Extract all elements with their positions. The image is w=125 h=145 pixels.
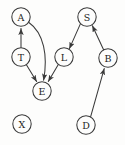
node-E[interactable]: E — [33, 82, 51, 100]
node-X[interactable]: X — [13, 115, 31, 133]
node-L[interactable]: L — [55, 48, 73, 66]
node-S-label: S — [84, 12, 91, 23]
edge-T-to-E — [26, 65, 36, 82]
node-A[interactable]: A — [12, 8, 30, 26]
graph-diagram: A S T L B E X — [0, 0, 125, 145]
edge-L-to-E — [48, 64, 58, 81]
edge-layer — [21, 22, 104, 117]
edge-B-to-S — [92, 26, 103, 50]
edge-D-to-B — [91, 69, 105, 117]
graph-canvas-svg: A S T L B E X — [0, 0, 125, 145]
edge-S-to-L — [69, 24, 80, 49]
node-B-label: B — [105, 53, 112, 64]
node-T[interactable]: T — [12, 48, 30, 66]
node-X-label: X — [19, 119, 26, 130]
node-S[interactable]: S — [78, 8, 96, 26]
node-L-label: L — [61, 52, 68, 63]
node-layer: A S T L B E X — [12, 8, 117, 134]
node-E-label: E — [39, 86, 46, 97]
node-B[interactable]: B — [99, 49, 117, 67]
node-T-label: T — [18, 52, 25, 63]
node-D-label: D — [82, 120, 90, 131]
node-D[interactable]: D — [77, 116, 95, 134]
node-A-label: A — [17, 12, 25, 23]
